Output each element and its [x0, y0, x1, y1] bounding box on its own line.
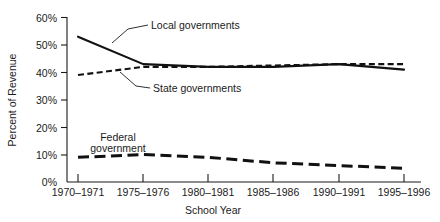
y-tick-label-30: 30%	[36, 94, 57, 106]
series-label-local: Local governments	[151, 19, 240, 31]
x-tick-marks	[78, 174, 404, 182]
y-tick-marks	[61, 18, 67, 156]
series-federal-government	[78, 155, 404, 169]
x-axis-title: School Year	[185, 204, 242, 216]
y-tick-label-60: 60%	[36, 12, 57, 24]
x-tick-label-1985-1986: 1985–1986	[247, 186, 300, 198]
y-tick-label-20: 20%	[36, 122, 57, 134]
x-tick-label-1995-1996: 1995–1996	[378, 186, 431, 198]
series-label-state: State governments	[153, 82, 241, 94]
x-tick-label-1990-1991: 1990–1991	[313, 186, 366, 198]
y-tick-label-40: 40%	[36, 67, 57, 79]
series-label-federal-line2: government	[90, 142, 146, 154]
leader-line-local	[112, 25, 148, 43]
leader-line-state	[120, 72, 150, 88]
x-tick-label-1980-1981: 1980–1981	[182, 186, 235, 198]
y-axis-title: Percent of Revenue	[6, 53, 18, 146]
x-tick-label-1975-1976: 1975–1976	[117, 186, 170, 198]
y-tick-labels: 60% 50% 40% 30% 20% 10% 0%	[36, 12, 57, 189]
y-tick-label-50: 50%	[36, 39, 57, 51]
x-tick-labels: 1970–1971 1975–1976 1980–1981 1985–1986 …	[52, 186, 431, 198]
line-chart: 60% 50% 40% 30% 20% 10% 0% 1970–1971 197…	[0, 0, 440, 222]
chart-canvas: 60% 50% 40% 30% 20% 10% 0% 1970–1971 197…	[0, 0, 440, 222]
x-tick-label-1970-1971: 1970–1971	[52, 186, 105, 198]
y-tick-label-10: 10%	[36, 149, 57, 161]
